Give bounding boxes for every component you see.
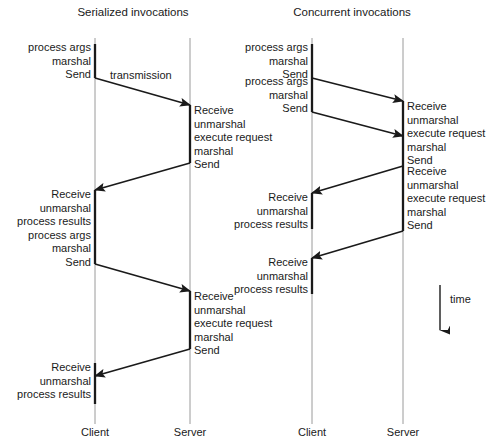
left-client-block-2-text: Receive unmarshal process results proces… bbox=[0, 188, 91, 270]
left-client-actor-label: Client bbox=[60, 426, 130, 440]
left-transmission-label: transmission bbox=[110, 69, 172, 83]
time-axis-label: time bbox=[450, 293, 471, 307]
left-client-block-3-text: Receive unmarshal process results bbox=[0, 361, 91, 402]
right-server-block-2-text: Receive unmarshal execute request marsha… bbox=[407, 165, 485, 233]
left-message-reply-1 bbox=[95, 163, 190, 190]
right-client-block-2-text: process args marshal Send bbox=[218, 75, 308, 116]
left-message-request-2 bbox=[95, 264, 190, 291]
right-panel-title: Concurrent invocations bbox=[272, 6, 432, 20]
left-server-block-2-text: Receive unmarshal execute request marsha… bbox=[194, 290, 272, 358]
right-client-actor-label: Client bbox=[277, 426, 347, 440]
right-server-actor-label: Server bbox=[368, 426, 438, 440]
right-message-request-2 bbox=[312, 112, 403, 136]
right-message-request-1 bbox=[312, 78, 403, 101]
right-message-reply-2 bbox=[312, 231, 403, 258]
right-client-block-4-text: Receive unmarshal process results bbox=[218, 256, 308, 297]
left-message-reply-2 bbox=[95, 349, 190, 376]
sequence-diagram-figure: Serialized invocations process args mars… bbox=[0, 0, 497, 445]
left-client-block-1-text: process args marshal Send bbox=[0, 41, 91, 82]
right-message-reply-1 bbox=[312, 166, 403, 193]
left-panel-title: Serialized invocations bbox=[53, 6, 213, 20]
right-server-block-1-text: Receive unmarshal execute request marsha… bbox=[407, 100, 485, 168]
left-server-actor-label: Server bbox=[155, 426, 225, 440]
right-client-block-3-text: Receive unmarshal process results bbox=[218, 191, 308, 232]
